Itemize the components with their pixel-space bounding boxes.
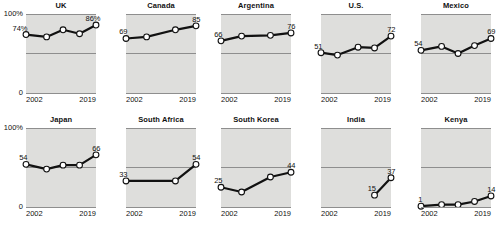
panel-title: Mexico xyxy=(421,1,491,10)
first-value-label: 15 xyxy=(368,184,376,193)
series-line xyxy=(126,14,196,93)
panel-title: South Korea xyxy=(221,115,291,124)
panel-argentina: Argentina667620022019 xyxy=(195,0,291,114)
data-point xyxy=(173,27,179,33)
data-point xyxy=(77,31,83,37)
panel-mexico: Mexico546920022019 xyxy=(395,0,491,114)
x-axis-end-label: 2019 xyxy=(374,95,391,104)
data-point xyxy=(239,189,245,195)
panel-u-s: U.S.517220022019 xyxy=(295,0,391,114)
data-point xyxy=(44,166,50,172)
last-value-label: 69 xyxy=(487,27,495,36)
panel-title: India xyxy=(321,115,391,124)
panel-title: Japan xyxy=(26,115,96,124)
panel-india: India153720022019 xyxy=(295,114,391,228)
plot-area xyxy=(221,128,291,207)
data-point xyxy=(372,45,378,51)
baseline-rule xyxy=(421,93,491,94)
data-point xyxy=(268,32,274,38)
baseline-rule xyxy=(321,93,391,94)
series-line xyxy=(421,128,491,207)
data-point xyxy=(60,162,66,168)
x-axis-start-label: 2002 xyxy=(421,95,438,104)
baseline-rule xyxy=(221,207,291,208)
baseline-rule xyxy=(321,207,391,208)
first-value-label: 69 xyxy=(119,27,127,36)
data-point xyxy=(239,33,245,39)
series-line xyxy=(421,14,491,93)
x-axis-start-label: 2002 xyxy=(321,95,338,104)
series-line xyxy=(221,14,291,93)
chart-row-2: Japan5466100%020022019South Africa335420… xyxy=(0,114,501,228)
x-axis-start-label: 2002 xyxy=(221,95,238,104)
first-value-label: 51 xyxy=(314,42,322,51)
x-axis-start-label: 2002 xyxy=(321,209,338,218)
first-value-label: 33 xyxy=(119,170,127,179)
plot-area xyxy=(126,14,196,93)
baseline-rule xyxy=(221,93,291,94)
first-value-label: 1 xyxy=(418,195,422,204)
last-value-label: 86% xyxy=(85,14,100,23)
panel-uk: UK74%86%100%020022019 xyxy=(0,0,96,114)
plot-area xyxy=(421,128,491,207)
plot-area xyxy=(26,128,96,207)
plot-area xyxy=(321,14,391,93)
series-line xyxy=(126,128,196,207)
data-point xyxy=(335,52,341,58)
x-axis-end-label: 2019 xyxy=(374,209,391,218)
data-point xyxy=(472,199,478,205)
baseline-rule xyxy=(126,93,196,94)
x-axis-start-label: 2002 xyxy=(26,209,43,218)
series-line xyxy=(221,128,291,207)
y-axis-bottom-label: 0 xyxy=(19,88,23,97)
baseline-rule xyxy=(26,207,96,208)
y-axis-top-label: 100% xyxy=(4,123,23,132)
x-axis-end-label: 2019 xyxy=(474,209,491,218)
x-axis-end-label: 2019 xyxy=(79,209,96,218)
first-value-label: 74% xyxy=(12,24,27,33)
x-axis-end-label: 2019 xyxy=(79,95,96,104)
first-value-label: 25 xyxy=(214,176,222,185)
panel-title: Argentina xyxy=(221,1,291,10)
x-axis-end-label: 2019 xyxy=(474,95,491,104)
panel-south-africa: South Africa335420022019 xyxy=(100,114,196,228)
series-line xyxy=(26,14,96,93)
plot-area xyxy=(126,128,196,207)
data-point xyxy=(44,34,50,40)
panel-kenya: Kenya11420022019 xyxy=(395,114,491,228)
x-axis-end-label: 2019 xyxy=(274,209,291,218)
series-line xyxy=(26,128,96,207)
data-point xyxy=(355,44,361,50)
baseline-rule xyxy=(26,93,96,94)
x-axis-start-label: 2002 xyxy=(421,209,438,218)
last-value-label: 14 xyxy=(487,185,495,194)
data-point xyxy=(472,43,478,49)
x-axis-start-label: 2002 xyxy=(126,95,143,104)
panel-south-korea: South Korea254420022019 xyxy=(195,114,291,228)
x-axis-start-label: 2002 xyxy=(221,209,238,218)
data-point xyxy=(439,43,445,49)
plot-area xyxy=(221,14,291,93)
panel-title: Kenya xyxy=(421,115,491,124)
panel-canada: Canada698520022019 xyxy=(100,0,196,114)
panel-title: South Africa xyxy=(126,115,196,124)
baseline-rule xyxy=(421,207,491,208)
baseline-rule xyxy=(126,207,196,208)
x-axis-end-label: 2019 xyxy=(274,95,291,104)
panel-title: U.S. xyxy=(321,1,391,10)
panel-japan: Japan5466100%020022019 xyxy=(0,114,96,228)
panel-title: UK xyxy=(26,1,96,10)
data-point xyxy=(77,162,83,168)
data-point xyxy=(173,178,179,184)
data-point xyxy=(144,34,150,40)
y-axis-bottom-label: 0 xyxy=(19,202,23,211)
plot-area xyxy=(321,128,391,207)
y-axis-top-label: 100% xyxy=(4,9,23,18)
data-point xyxy=(268,174,274,180)
data-point xyxy=(60,27,66,33)
x-axis-start-label: 2002 xyxy=(26,95,43,104)
first-value-label: 54 xyxy=(19,153,27,162)
data-point xyxy=(455,51,461,57)
x-axis-end-label: 2019 xyxy=(179,209,196,218)
plot-area xyxy=(421,14,491,93)
